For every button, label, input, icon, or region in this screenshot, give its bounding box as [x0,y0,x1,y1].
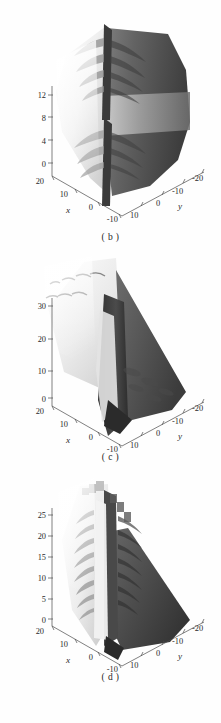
plot-c-ztick-1: 10 [38,367,46,376]
plot-d-ytick-1: 0 [156,649,160,658]
surface-plot-panel-d: 25 20 15 10 5 0 20 10 0 -10 x 10 [0,470,221,723]
plot-b-xtick-1: 10 [60,190,68,199]
plot-b-ztick-3: 12 [38,91,46,100]
plot-c-xtick-2: 0 [89,433,93,442]
plot-d-xlabel: x [65,655,71,665]
plot-d-ytick-2: -10 [172,637,183,646]
plot-b-ztick-0: 0 [42,160,46,169]
plot-b-ytick-1: 0 [156,199,160,208]
figure-page: 12 8 4 0 20 10 0 -10 x 10 0 [0,0,221,723]
plot-c-ytick-2: -10 [172,417,183,426]
plot-b-ytick-3: -20 [192,174,203,183]
panel-b-caption: ( b ) [0,232,221,242]
plot-b-svg: 12 8 4 0 20 10 0 -10 x 10 0 [0,0,221,250]
plot-b-xtick-0: 20 [36,177,44,186]
panel-c-caption: ( c ) [0,452,221,462]
plot-b-ytick-2: -10 [172,187,183,196]
plot-d-ylabel: y [177,651,183,661]
plot-d-ztick-3: 15 [38,553,46,562]
plot-c-surface [44,256,186,436]
plot-d-ztick-1: 5 [42,595,46,604]
plot-c-ytick-3: -20 [192,404,203,413]
plot-d-surface [58,478,190,660]
plot-d-svg: 25 20 15 10 5 0 20 10 0 -10 x 10 [0,470,221,723]
plot-d-ztick-5: 25 [38,511,46,520]
plot-d-ytick-3: -20 [192,624,203,633]
plot-d-xtick-0: 20 [36,627,44,636]
plot-c-ztick-2: 20 [38,335,46,344]
plot-d-ztick-0: 0 [42,616,46,625]
surface-plot-panel-c: 30 20 10 0 20 10 0 -10 x 10 0 -10 [0,250,221,470]
plot-c-xlabel: x [65,435,71,445]
plot-c-ytick-0: 10 [130,441,138,450]
plot-c-xtick-0: 20 [36,407,44,416]
plot-c-ztick-3: 30 [38,302,46,311]
plot-c-svg: 30 20 10 0 20 10 0 -10 x 10 0 -10 [0,250,221,470]
plot-b-xtick-2: 0 [89,203,93,212]
plot-c-ylabel: y [177,431,183,441]
plot-c-ztick-0: 0 [42,395,46,404]
panel-d-caption: ( d ) [0,672,221,682]
plot-d-ytick-0: 10 [130,661,138,670]
plot-b-ytick-0: 10 [130,211,138,220]
plot-b-xlabel: x [65,205,71,215]
surface-plot-panel-b: 12 8 4 0 20 10 0 -10 x 10 0 [0,0,221,250]
plot-c-ytick-1: 0 [156,429,160,438]
plot-b-ztick-2: 8 [42,114,46,123]
plot-b-xtick-3: -10 [107,215,118,224]
plot-b-surface [56,24,190,206]
plot-c-xtick-1: 10 [60,420,68,429]
plot-b-ztick-1: 4 [42,137,47,146]
plot-b-ylabel: y [177,201,183,211]
plot-d-ztick-4: 20 [38,532,46,541]
plot-d-ztick-2: 10 [38,574,46,583]
plot-d-xtick-1: 10 [60,640,68,649]
plot-d-xtick-2: 0 [89,653,93,662]
